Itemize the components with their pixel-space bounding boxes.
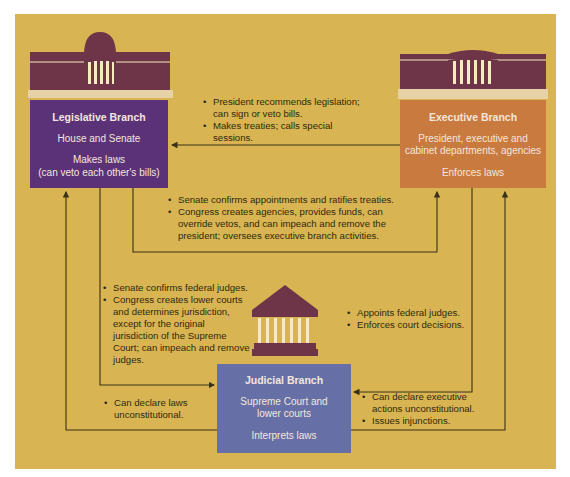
judicial-branch-box: Judicial Branch Supreme Court and lower …	[217, 364, 351, 453]
check-item: Senate confirms federal judges.	[103, 282, 251, 294]
check-item: Makes treaties; calls special sessions.	[203, 120, 373, 144]
judicial-on-executive-checks: Can declare executive actions unconstitu…	[362, 391, 497, 427]
check-item: Congress creates lower courts and determ…	[103, 294, 251, 366]
check-item: Issues injunctions.	[362, 415, 497, 427]
legislative-on-judicial-checks: Senate confirms federal judges. Congress…	[103, 282, 251, 366]
capitol-building-icon	[28, 20, 173, 102]
legislative-branch-box: Legislative Branch House and Senate Make…	[30, 100, 168, 188]
executive-role: Enforces laws	[400, 167, 546, 180]
legislative-role: Makes laws	[30, 154, 168, 167]
check-item: Senate confirms appointments and ratifie…	[168, 194, 413, 206]
check-item: President recommends legislation; can si…	[203, 96, 373, 120]
executive-members-line2: cabinet departments, agencies	[400, 145, 546, 158]
executive-on-legislative-checks: President recommends legislation; can si…	[203, 96, 373, 144]
check-item: Can declare executive actions unconstitu…	[362, 391, 497, 415]
white-house-icon	[398, 44, 548, 102]
executive-branch-box: Executive Branch President, executive an…	[400, 100, 546, 188]
executive-members-line1: President, executive and	[400, 133, 546, 146]
judicial-role: Interprets laws	[217, 430, 351, 443]
judicial-members-line2: lower courts	[217, 408, 351, 421]
judicial-members-line1: Supreme Court and	[217, 396, 351, 409]
legislative-on-executive-checks: Senate confirms appointments and ratifie…	[168, 194, 413, 242]
check-item: Congress creates agencies, provides fund…	[168, 206, 413, 242]
judicial-title: Judicial Branch	[217, 374, 351, 387]
legislative-role-note: (can veto each other's bills)	[30, 167, 168, 180]
judicial-on-legislative-checks: Can declare laws unconstitutional.	[104, 397, 209, 421]
executive-title: Executive Branch	[400, 111, 546, 124]
check-item: Enforces court decisions.	[347, 319, 472, 331]
check-item: Appoints federal judges.	[347, 307, 472, 319]
courthouse-icon	[252, 285, 318, 357]
executive-on-judicial-checks: Appoints federal judges. Enforces court …	[347, 307, 472, 331]
legislative-title: Legislative Branch	[30, 111, 168, 124]
check-item: Can declare laws unconstitutional.	[104, 397, 209, 421]
legislative-members: House and Senate	[30, 133, 168, 146]
